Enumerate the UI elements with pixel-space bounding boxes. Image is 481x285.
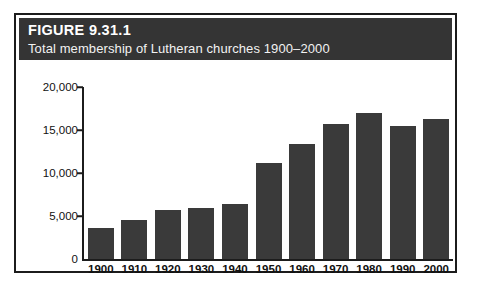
y-tick-mark <box>77 215 83 217</box>
bar <box>390 126 416 259</box>
x-axis-labels: 1900191019201930194019501960197019801990… <box>84 263 453 283</box>
bar <box>88 228 114 259</box>
bars-layer <box>84 60 453 260</box>
figure-number-label: FIGURE 9.31.1 <box>28 21 452 39</box>
y-axis-labels: 20,00015,00010,0005,0000 <box>20 60 78 271</box>
figure-subtitle: Total membership of Lutheran churches 19… <box>28 39 452 58</box>
y-tick-mark <box>77 172 83 174</box>
bar <box>155 210 181 259</box>
bar <box>256 163 282 259</box>
bar <box>188 208 214 259</box>
y-tick-label: 15,000 <box>24 124 78 136</box>
x-tick-label: 2000 <box>416 263 456 275</box>
bar <box>323 124 349 259</box>
bar <box>356 113 382 259</box>
figure-panel: FIGURE 9.31.1 Total membership of Luther… <box>14 13 457 273</box>
y-tick-label: 5,000 <box>24 210 78 222</box>
y-tick-label: 10,000 <box>24 167 78 179</box>
bar <box>121 220 147 259</box>
chart-plot-area: 20,00015,00010,0005,0000 190019101920193… <box>16 60 455 271</box>
y-tick-label: 0 <box>24 253 78 265</box>
y-tick-label: 20,000 <box>24 81 78 93</box>
y-tick-mark <box>77 86 83 88</box>
bar <box>423 119 449 259</box>
bar <box>289 144 315 259</box>
figure-header-band: FIGURE 9.31.1 Total membership of Luther… <box>19 18 452 60</box>
y-tick-mark <box>77 129 83 131</box>
bar <box>222 204 248 259</box>
